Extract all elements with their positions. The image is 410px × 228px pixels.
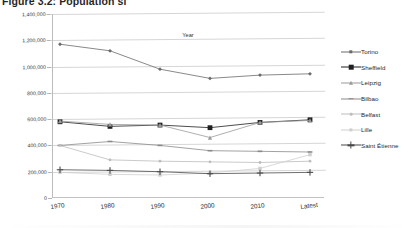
y-axis-tick-label: 200,000 [28, 169, 47, 175]
legend-marker-icon [341, 140, 361, 150]
legend-marker-icon [341, 78, 361, 88]
legend-marker-icon [341, 47, 361, 57]
series-saint-étienne [57, 167, 313, 177]
x-axis-tick-labels: 19701980199020002010Latest [52, 198, 324, 228]
y-axis-tick-label: 1,200,000 [22, 37, 46, 43]
y-axis-tick-label: 1,000,000 [22, 64, 46, 70]
legend-item-leipzig[interactable]: Leipzig [341, 75, 410, 91]
legend-item-lille[interactable]: Lille [341, 122, 410, 138]
legend-marker-icon [341, 109, 361, 119]
y-axis-tick-label: 800,000 [27, 90, 46, 96]
y-axis-tick [48, 145, 52, 146]
x-axis-title: Year [182, 32, 193, 38]
legend-label: Belfast [361, 111, 380, 118]
legend-label: Torino [361, 48, 378, 55]
y-axis-tick-label: 600,000 [27, 116, 46, 122]
series-leipzig [58, 118, 312, 139]
legend-label: Leipzig [361, 79, 381, 86]
legend-marker-icon [341, 125, 361, 135]
x-axis-tick-label: 2010 [250, 201, 265, 210]
y-axis-tick [47, 14, 51, 15]
y-axis-tick [47, 40, 51, 41]
series-torino [58, 42, 312, 80]
legend-label: Bilbao [361, 95, 379, 102]
legend-item-saint-étienne[interactable]: Saint Étienne [341, 138, 410, 154]
figure-title: Figure 3.2: Population si [2, 0, 126, 7]
series-belfast [59, 144, 312, 164]
legend-item-sheffield[interactable]: Sheffield [341, 60, 410, 76]
legend-label: Sheffield [361, 64, 385, 71]
y-axis-tick [47, 119, 51, 120]
legend-label: Saint Étienne [361, 142, 398, 149]
x-axis-tick-label: 2000 [200, 201, 215, 210]
legend-marker-icon [341, 94, 361, 104]
chart-plot-area: 0200,000400,000600,000800,0001,000,0001,… [52, 14, 324, 198]
legend-marker-icon [341, 62, 361, 72]
y-axis-tick-label: 1,400,000 [22, 11, 46, 17]
legend-item-belfast[interactable]: Belfast [341, 106, 410, 122]
legend-item-bilbao[interactable]: Bilbao [341, 91, 410, 107]
series-bilbao [58, 141, 313, 153]
series-layer [52, 14, 324, 198]
chart-legend: TorinoSheffieldLeipzigBilbaoBelfastLille… [341, 44, 410, 153]
x-axis-tick-label: 1990 [150, 201, 165, 210]
x-axis-tick-label: 1980 [100, 201, 115, 210]
y-axis-tick-label: 400,000 [27, 142, 46, 148]
x-axis-tick-label: Latest [300, 201, 318, 210]
legend-item-torino[interactable]: Torino [341, 44, 410, 60]
scan-edge-artifact [0, 225, 410, 228]
legend-label: Lille [361, 126, 372, 133]
y-axis-tick [47, 93, 51, 94]
x-axis-tick-label: 1970 [50, 201, 65, 210]
y-axis-tick-label: 0 [44, 195, 47, 201]
y-axis-tick [47, 67, 51, 68]
